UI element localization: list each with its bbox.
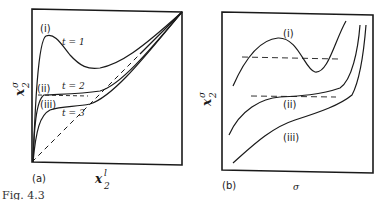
panel-b: (i) (ii) (iii) x σ 2 (b) σ: [197, 12, 373, 192]
panel-b-frame: [222, 12, 373, 173]
curve-label-i-a: (i): [40, 23, 51, 34]
panel-a-ylabel: x σ 2: [10, 81, 31, 97]
svg-text:x: x: [13, 88, 27, 97]
panel-a-label: (a): [32, 173, 46, 184]
svg-text:l: l: [104, 168, 107, 178]
panel-a-xlabel: x l 2: [94, 168, 110, 191]
panel-b-label: (b): [222, 180, 236, 191]
curve-label-ii-b: (ii): [283, 99, 296, 110]
curve-label-iii-b: (iii): [283, 132, 299, 143]
panel-b-ylabel: x σ 2: [197, 91, 218, 107]
tangent-ii-b: [251, 96, 336, 97]
tieline-i-b: [242, 57, 338, 59]
svg-text:x: x: [94, 172, 103, 186]
svg-text:x: x: [200, 98, 214, 107]
figure-canvas: (i) t = 1 (ii) t = 2 (iii) t = 3 x σ 2 (…: [0, 0, 382, 200]
curve-label-i-b: (i): [283, 28, 294, 39]
panel-a: (i) t = 1 (ii) t = 2 (iii) t = 3 x σ 2 (…: [10, 9, 182, 191]
param-label-t1: t = 1: [62, 37, 85, 47]
svg-text:2: 2: [103, 181, 110, 191]
svg-text:σ: σ: [197, 91, 207, 98]
curve-iii-b: [233, 25, 366, 163]
param-label-t2: t = 2: [62, 81, 85, 91]
curve-label-iii-a: (iii): [40, 99, 56, 110]
svg-text:σ: σ: [10, 81, 20, 88]
svg-text:2: 2: [21, 82, 31, 89]
svg-text:2: 2: [208, 92, 218, 99]
curve-ii-b: [229, 25, 360, 135]
param-label-t3: t = 3: [62, 108, 85, 118]
tangent-ii-a: [38, 95, 88, 96]
curve-label-ii-a: (ii): [37, 83, 50, 94]
panel-b-xlabel: σ: [293, 182, 300, 192]
caption-fragment: Fig. 4.3: [2, 189, 45, 200]
